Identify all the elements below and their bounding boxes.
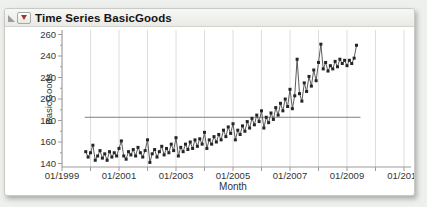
outline-title-bar: Time Series BasicGoods [5, 9, 414, 27]
red-triangle-menu-button[interactable] [17, 12, 31, 24]
disclosure-triangle-icon[interactable] [8, 15, 15, 22]
report-panel: Time Series BasicGoods 14016018020022024… [4, 8, 415, 196]
axes [58, 30, 411, 171]
time-series-plot[interactable]: 14016018020022024026001/199901/200101/20… [5, 27, 414, 195]
svg-text:01/2007: 01/2007 [273, 170, 307, 181]
y-axis-label: BasicGoods [43, 73, 54, 124]
svg-text:01/1999: 01/1999 [45, 170, 79, 181]
gridlines [62, 30, 404, 167]
svg-text:160: 160 [40, 136, 56, 147]
svg-text:01/2003: 01/2003 [159, 170, 193, 181]
svg-text:140: 140 [40, 158, 56, 169]
screen: { "panel": { "title": "Time Series Basic… [0, 0, 427, 207]
svg-text:01/2009: 01/2009 [330, 170, 364, 181]
svg-text:260: 260 [40, 29, 56, 40]
panel-title: Time Series BasicGoods [35, 12, 172, 24]
red-triangle-icon [21, 15, 27, 20]
x-axis-label: Month [219, 181, 247, 192]
svg-text:01/2011: 01/2011 [387, 170, 414, 181]
data-series[interactable] [84, 43, 358, 164]
svg-text:240: 240 [40, 50, 56, 61]
svg-text:01/2001: 01/2001 [102, 170, 136, 181]
svg-text:01/2005: 01/2005 [216, 170, 250, 181]
